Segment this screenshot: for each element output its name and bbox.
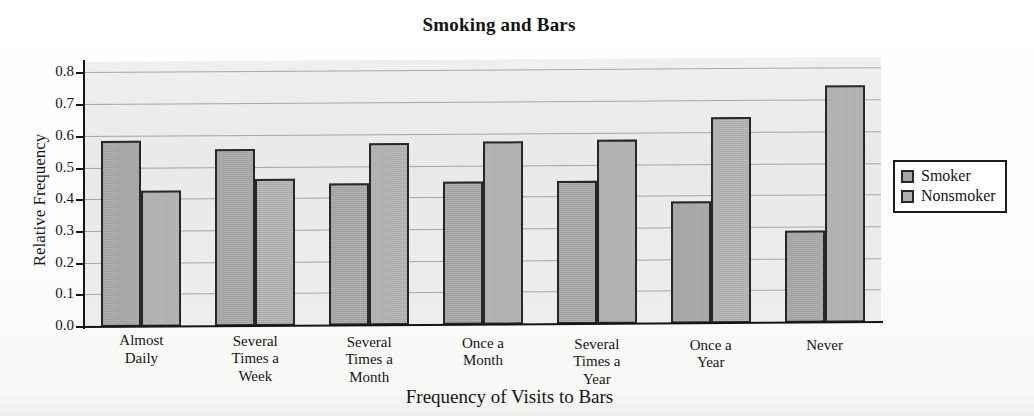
bars-layer [84,57,881,327]
x-tick-label-2: SeveralTimes aMonth [309,334,429,387]
bar-texture [787,233,823,321]
x-tick-label-6: Never [765,337,885,355]
x-tick-label-line: Times a [195,350,315,368]
x-tick-label-line: Several [309,334,429,352]
y-tick-label-0.0: 0.0 [28,317,74,334]
x-tick-label-0: AlmostDaily [81,332,201,367]
x-tick-label-line: Several [537,336,657,354]
y-axis-title: Relative Frequency [30,100,50,300]
bar-smoker-1 [215,148,255,326]
x-tick-label-line: Once a [651,337,771,355]
y-tick-0.0 [76,326,84,328]
y-tick-0.2 [76,263,84,265]
x-axis-title: Frequency of Visits to Bars [111,386,908,408]
x-tick-label-1: SeveralTimes aWeek [195,333,315,386]
x-tick-label-line: Times a [537,353,657,371]
bar-texture [599,141,635,322]
y-axis-line [83,60,85,329]
x-tick-label-line: Month [309,369,429,387]
chart-title: Smoking and Bars [0,14,1016,36]
y-tick-0.7 [76,104,84,106]
bar-smoker-5 [671,201,711,323]
bar-texture [143,192,179,325]
y-tick-0.8 [76,72,84,74]
bar-texture [331,185,367,323]
bar-smoker-6 [785,231,825,323]
bar-nonsmoker-5 [711,117,751,323]
legend-item-smoker[interactable]: Smoker [901,166,996,186]
y-tick-label-0.8: 0.8 [28,63,74,80]
bar-texture [673,203,709,321]
y-tick-0.3 [76,231,84,233]
bar-nonsmoker-6 [825,85,865,322]
bar-nonsmoker-4 [597,139,637,324]
x-tick-label-5: Once aYear [651,337,771,372]
bar-texture [827,87,863,320]
bar-smoker-0 [101,141,141,327]
bar-texture [217,150,253,324]
x-tick-label-line: Year [651,354,771,372]
x-tick-label-4: SeveralTimes aYear [537,336,657,389]
y-tick-0.1 [76,294,84,296]
bar-texture [103,143,139,325]
bar-nonsmoker-1 [255,179,295,326]
bar-texture [371,145,407,323]
legend-swatch-icon-smoker [901,170,914,183]
bar-smoker-3 [443,182,483,325]
legend: SmokerNonsmoker [893,160,1007,213]
bar-texture [257,181,293,324]
legend-item-nonsmoker[interactable]: Nonsmoker [901,186,996,206]
y-tick-0.6 [76,136,84,138]
bar-texture [485,143,521,322]
x-tick-label-line: Almost [81,332,201,350]
bar-texture [445,184,481,323]
x-tick-label-line: Several [195,333,315,351]
x-tick-label-line: Daily [81,350,201,368]
x-tick-label-line: Never [765,337,885,355]
x-tick-label-line: Once a [423,335,543,353]
legend-label-nonsmoker: Nonsmoker [921,187,996,205]
x-tick-label-line: Week [195,368,315,386]
bar-texture [713,119,749,321]
y-tick-0.4 [76,199,84,201]
x-tick-label-line: Month [423,352,543,370]
bar-smoker-2 [329,183,369,325]
y-tick-0.5 [76,168,84,170]
bar-nonsmoker-3 [483,141,523,324]
legend-label-smoker: Smoker [921,167,971,185]
x-tick-label-line: Times a [309,351,429,369]
bar-nonsmoker-2 [369,143,409,326]
legend-swatch-icon-nonsmoker [901,190,914,203]
x-tick-label-3: Once aMonth [423,335,543,370]
bar-smoker-4 [557,181,597,325]
bar-nonsmoker-0 [141,190,181,327]
bar-texture [559,183,595,322]
bar-chart-figure: Smoking and Bars 0.00.10.20.30.40.50.60.… [0,0,1034,416]
